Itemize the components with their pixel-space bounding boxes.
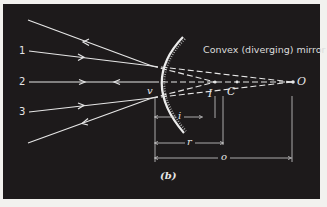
ray-label-2: 2 bbox=[19, 77, 25, 87]
image-label: I bbox=[208, 88, 212, 99]
ray-label-3: 3 bbox=[19, 107, 25, 117]
radius-label: r bbox=[187, 137, 192, 147]
figure-title: Convex (diverging) mirror bbox=[203, 45, 325, 55]
ray-label-1: 1 bbox=[19, 46, 25, 56]
image-distance-label: i bbox=[178, 111, 181, 121]
center-label: C bbox=[227, 86, 235, 97]
center-point bbox=[236, 81, 239, 84]
incident-rays bbox=[29, 51, 153, 112]
vertex-label: v bbox=[147, 86, 153, 96]
object-distance-label: o bbox=[221, 152, 227, 162]
figure-caption: (b) bbox=[160, 171, 176, 181]
object-label: O bbox=[297, 76, 306, 87]
object-point bbox=[291, 80, 295, 84]
image-point bbox=[213, 80, 216, 83]
virtual-ray-extensions bbox=[152, 66, 292, 98]
convex-mirror bbox=[162, 37, 186, 133]
